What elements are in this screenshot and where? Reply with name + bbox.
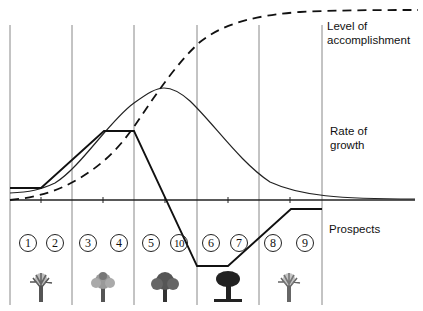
stage-marker: 10 bbox=[170, 234, 188, 252]
rate-of-growth-label: Rate of growth bbox=[330, 124, 367, 152]
stage-marker: 9 bbox=[296, 234, 314, 252]
blossoming-tree-icon bbox=[87, 270, 119, 304]
level-label-line1: Level of bbox=[327, 19, 410, 33]
prospects-label: Prospects bbox=[329, 222, 380, 236]
dark-tree-icon bbox=[210, 268, 246, 304]
stage-marker: 2 bbox=[46, 234, 64, 252]
rate-label-line2: growth bbox=[330, 138, 367, 152]
column-dividers bbox=[10, 25, 322, 305]
rate-label-line1: Rate of bbox=[330, 124, 367, 138]
stage-marker: 1 bbox=[19, 234, 37, 252]
full-tree-icon bbox=[148, 270, 182, 304]
stage-marker: 3 bbox=[79, 234, 97, 252]
bare-tree-icon bbox=[273, 270, 305, 304]
level-of-accomplishment-label: Level of accomplishment bbox=[327, 19, 410, 47]
stage-marker: 6 bbox=[202, 234, 220, 252]
level-label-line2: accomplishment bbox=[327, 33, 410, 47]
stage-marker: 5 bbox=[142, 234, 160, 252]
stage-marker: 7 bbox=[230, 234, 248, 252]
bare-tree-icon bbox=[25, 270, 57, 304]
stage-marker: 8 bbox=[264, 234, 282, 252]
stage-marker: 4 bbox=[110, 234, 128, 252]
